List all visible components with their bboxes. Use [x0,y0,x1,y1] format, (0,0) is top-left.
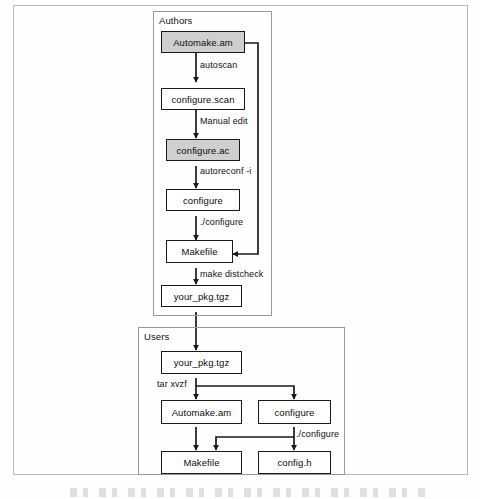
node-users-config-h: config.h [258,451,331,474]
node-users-makefile: Makefile [161,451,242,474]
node-authors-configure-ac: configure.ac [166,139,240,161]
edge-label-tar-xvzf: tar xvzf [157,379,187,389]
node-authors-configure-scan: configure.scan [161,88,245,110]
edge-label-autoreconf-i: autoreconf -i [200,166,251,176]
node-authors-makefile: Makefile [166,240,233,263]
edge-label-manual-edit: Manual edit [200,116,248,126]
caption-strip-cutoff [70,488,430,497]
node-authors-configure: configure [166,189,240,211]
figure-page: Authors Automake.am autoscan configure.s… [0,0,480,499]
edge-label-dot-configure-authors: ./configure [200,217,243,227]
node-authors-automake-am: Automake.am [161,31,245,53]
edge-label-dot-configure-users: ./configure [296,429,339,439]
node-authors-your-pkg-tgz: your_pkg.tgz [161,285,242,307]
group-authors-label: Authors [159,15,192,26]
node-users-your-pkg-tgz: your_pkg.tgz [161,351,242,374]
edge-label-make-distcheck: make distcheck [200,269,263,279]
group-users-label: Users [144,331,169,342]
edge-label-autoscan: autoscan [200,60,237,70]
node-users-automake-am: Automake.am [161,400,242,424]
node-users-configure: configure [258,400,331,424]
